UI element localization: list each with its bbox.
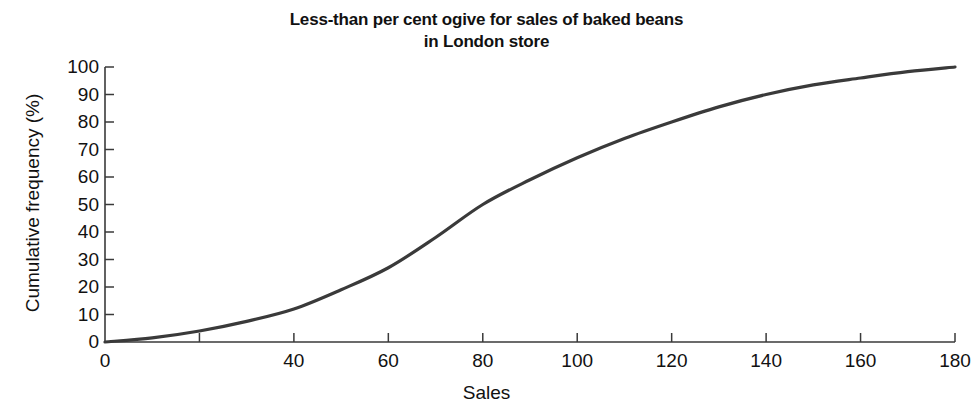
data-curves [105,67,955,342]
axes [105,67,955,342]
chart-figure: Less-than per cent ogive for sales of ba… [0,0,973,417]
plot-area [0,0,973,417]
ogive-curve [105,67,955,342]
